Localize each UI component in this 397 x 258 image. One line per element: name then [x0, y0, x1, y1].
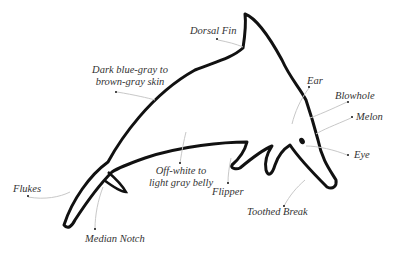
label-skin-line2: brown-gray skin	[80, 76, 180, 88]
label-skin: Dark blue-gray to brown-gray skin	[80, 64, 180, 88]
label-flipper: Flipper	[212, 186, 244, 198]
label-skin-line1: Dark blue-gray to	[80, 64, 180, 76]
label-eye: Eye	[354, 149, 370, 161]
label-blowhole: Blowhole	[335, 90, 375, 102]
label-melon: Melon	[356, 111, 383, 123]
label-dorsal-fin: Dorsal Fin	[190, 25, 236, 37]
label-toothed-break: Toothed Break	[247, 206, 308, 218]
dolphin-illustration	[0, 0, 397, 258]
label-ear: Ear	[307, 75, 323, 87]
label-belly-line1: Off-white to	[136, 165, 226, 177]
dolphin-diagram: Dorsal Fin Dark blue-gray to brown-gray …	[0, 0, 397, 258]
label-flukes: Flukes	[13, 183, 41, 195]
dolphin-outline	[64, 14, 336, 227]
label-median-notch: Median Notch	[85, 233, 145, 245]
